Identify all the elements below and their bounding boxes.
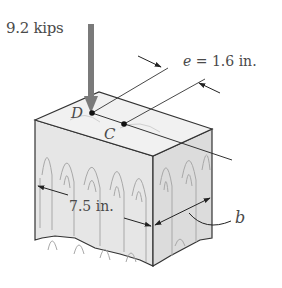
point-c-label: C xyxy=(104,125,115,143)
depth-label: b xyxy=(235,208,245,227)
column-diagram xyxy=(0,0,282,288)
load-label: 9.2 kips xyxy=(6,19,63,37)
point-d-dot xyxy=(89,110,95,116)
point-c-dot xyxy=(121,121,127,127)
e-arrow-right xyxy=(199,83,220,93)
load-arrow xyxy=(84,24,98,113)
eccentricity-label: e = 1.6 in. xyxy=(183,53,257,69)
width-label: 7.5 in. xyxy=(69,198,114,214)
eccentricity-value: = 1.6 in. xyxy=(191,53,256,69)
e-arrow-left xyxy=(138,56,161,67)
wood-block xyxy=(35,92,212,266)
point-d-label: D xyxy=(71,104,83,122)
